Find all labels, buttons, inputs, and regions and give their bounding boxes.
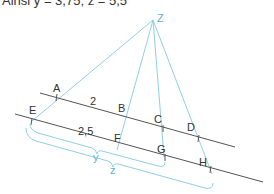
- label-f: F: [114, 132, 121, 144]
- label-ef-length: 2,5: [78, 125, 93, 137]
- parallel-lines: [15, 93, 263, 182]
- label-e: E: [29, 104, 36, 116]
- label-c: C: [154, 113, 162, 125]
- label-y: y: [93, 151, 99, 163]
- label-g: G: [157, 143, 166, 155]
- rays: [32, 20, 212, 174]
- line-abcd: [40, 93, 235, 147]
- thales-diagram: Z A B C D E F G H 2 2,5 y z: [0, 0, 274, 194]
- label-h: H: [199, 156, 207, 168]
- label-d: D: [187, 121, 195, 133]
- ray-zb: [117, 20, 153, 150]
- line-efgh: [15, 114, 263, 182]
- label-b: B: [118, 102, 125, 114]
- label-z-length: z: [110, 164, 116, 176]
- label-ab-length: 2: [90, 95, 96, 107]
- label-a: A: [53, 82, 61, 94]
- label-z-apex: Z: [157, 12, 164, 24]
- ray-zc: [153, 20, 164, 157]
